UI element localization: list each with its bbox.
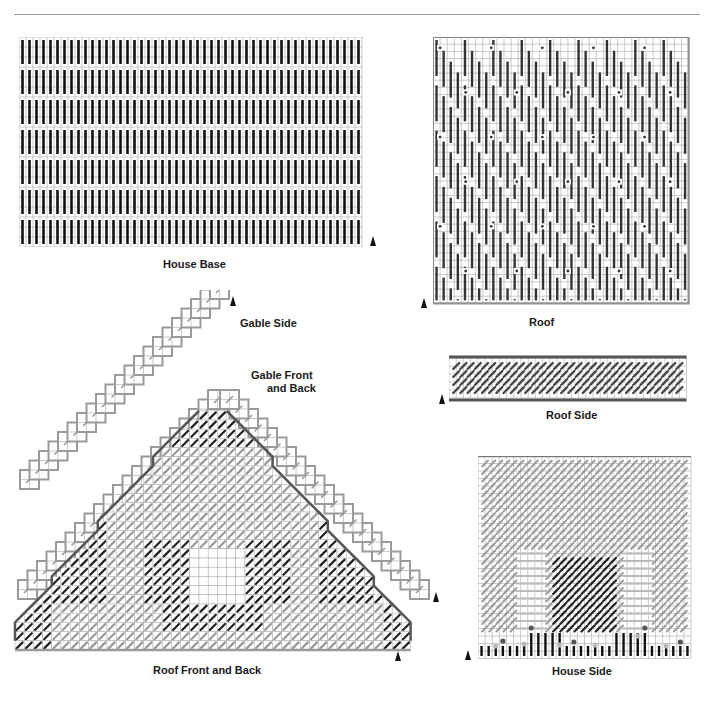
- roof-side-label: Roof Side: [546, 409, 597, 421]
- start-arrow-icon: [439, 394, 445, 404]
- start-arrow-icon: [370, 236, 376, 246]
- house-side-label: House Side: [552, 665, 612, 677]
- roof-label: Roof: [529, 316, 554, 328]
- house-side-chart: [478, 456, 692, 661]
- roof-chart: [433, 37, 693, 309]
- house-base-label: House Base: [163, 258, 226, 270]
- start-arrow-icon: [230, 296, 236, 306]
- roof-front-back-label: Roof Front and Back: [153, 664, 261, 676]
- gable-front-back-label-line1: Gable Front: [251, 369, 313, 381]
- house-base-chart: [19, 37, 369, 247]
- top-divider: [14, 14, 700, 15]
- start-arrow-icon: [465, 650, 471, 660]
- gable-and-roof-front-charts: [10, 290, 430, 660]
- start-arrow-icon: [433, 592, 439, 602]
- roof-side-chart: [449, 355, 691, 405]
- gable-side-label: Gable Side: [240, 317, 297, 329]
- gable-front-back-label-line2: and Back: [267, 382, 316, 394]
- start-arrow-icon: [395, 651, 401, 661]
